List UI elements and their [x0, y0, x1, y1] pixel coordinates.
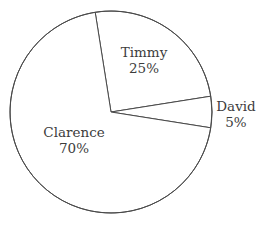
- pie-slices: [10, 11, 212, 213]
- pie-label-clarence-value: 70%: [30, 140, 118, 156]
- pie-label-timmy: Timmy 25%: [108, 44, 180, 76]
- pie-label-timmy-name: Timmy: [108, 44, 180, 60]
- pie-label-david: David 5%: [212, 98, 260, 130]
- pie-label-timmy-value: 25%: [108, 60, 180, 76]
- pie-chart: Timmy 25% David 5% Clarence 70%: [0, 0, 262, 227]
- pie-label-clarence-name: Clarence: [30, 124, 118, 140]
- pie-label-david-name: David: [212, 98, 260, 114]
- pie-label-david-value: 5%: [212, 114, 260, 130]
- pie-label-clarence: Clarence 70%: [30, 124, 118, 156]
